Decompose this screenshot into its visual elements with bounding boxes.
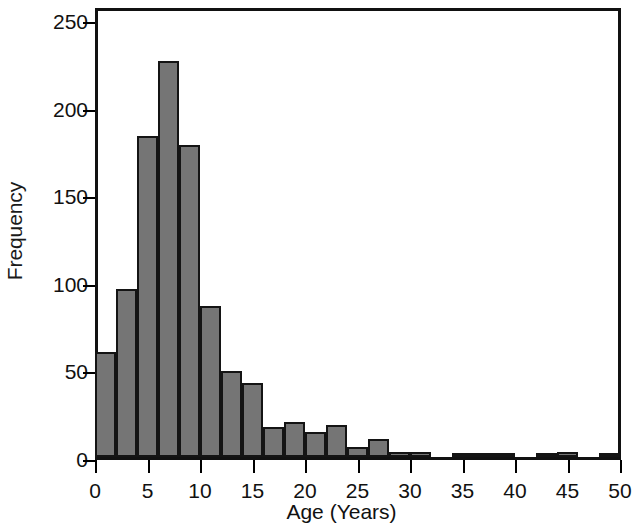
- x-tick-label: 25: [346, 480, 369, 501]
- histogram-bar: [599, 453, 620, 457]
- y-tick-label: 100: [53, 274, 88, 295]
- histogram-bars: [95, 8, 621, 460]
- histogram-bar: [179, 145, 200, 457]
- x-tick-label: 20: [293, 480, 316, 501]
- x-tick-label: 45: [556, 480, 579, 501]
- x-tick-label: 40: [503, 480, 526, 501]
- histogram-bar: [137, 136, 158, 457]
- y-tick-mark: [83, 197, 95, 199]
- histogram-bar: [284, 422, 305, 457]
- histogram-bar: [116, 289, 137, 457]
- x-tick-label: 10: [188, 480, 211, 501]
- histogram-bar: [326, 425, 347, 457]
- histogram-bar: [536, 453, 557, 457]
- histogram-bar: [368, 439, 389, 457]
- x-tick-mark: [620, 460, 622, 473]
- x-tick-label: 0: [89, 480, 101, 501]
- y-tick-label: 0: [76, 449, 88, 470]
- y-tick-label: 50: [65, 361, 88, 382]
- histogram-bar: [410, 452, 431, 457]
- y-tick-mark: [83, 285, 95, 287]
- histogram-bar: [305, 432, 326, 457]
- y-tick-label: 150: [53, 186, 88, 207]
- x-tick-mark: [515, 460, 517, 473]
- x-tick-mark: [253, 460, 255, 473]
- histogram-bar: [158, 61, 179, 457]
- x-tick-mark: [95, 460, 97, 473]
- histogram-bar: [95, 352, 116, 457]
- y-tick-mark: [83, 460, 95, 462]
- x-axis-title: Age (Years): [0, 500, 631, 524]
- histogram-bar: [557, 452, 578, 457]
- x-tick-mark: [305, 460, 307, 473]
- x-tick-label: 5: [142, 480, 154, 501]
- histogram-bar: [452, 453, 473, 457]
- y-tick-mark: [83, 22, 95, 24]
- x-tick-mark: [200, 460, 202, 473]
- y-tick-label: 250: [53, 11, 88, 32]
- histogram-bar: [263, 427, 284, 457]
- histogram-bar: [494, 453, 515, 457]
- histogram-bar: [347, 447, 368, 458]
- x-tick-mark: [568, 460, 570, 473]
- y-axis-title-text: Frequency: [3, 182, 27, 280]
- x-tick-mark: [358, 460, 360, 473]
- y-tick-mark: [83, 372, 95, 374]
- histogram-bar: [473, 453, 494, 457]
- x-tick-label: 35: [451, 480, 474, 501]
- x-tick-label: 50: [608, 480, 631, 501]
- histogram-bar: [200, 306, 221, 457]
- x-tick-label: 30: [398, 480, 421, 501]
- x-tick-label: 15: [241, 480, 264, 501]
- y-tick-label: 200: [53, 99, 88, 120]
- x-tick-mark: [463, 460, 465, 473]
- x-tick-mark: [148, 460, 150, 473]
- histogram-bar: [242, 383, 263, 457]
- x-tick-mark: [410, 460, 412, 473]
- histogram-bar: [221, 371, 242, 457]
- plot-area: [95, 8, 621, 460]
- y-tick-mark: [83, 110, 95, 112]
- y-axis-title: Frequency: [2, 0, 28, 462]
- x-axis-title-text: Age (Years): [286, 500, 396, 524]
- histogram-bar: [389, 452, 410, 457]
